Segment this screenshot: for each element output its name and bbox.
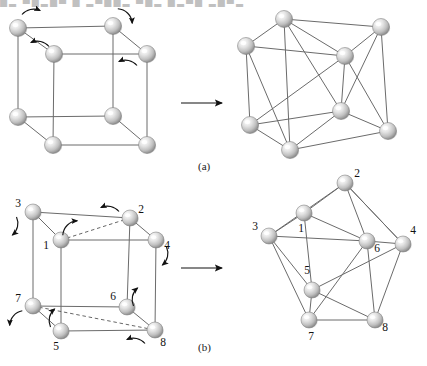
vertex-label-5: 5 xyxy=(304,264,310,276)
vertex-sphere xyxy=(238,38,255,55)
graph-vertex xyxy=(25,298,42,314)
graph-edge-dashed xyxy=(61,218,130,240)
vertex-highlight xyxy=(49,49,55,53)
planar-embedding-unlabeled xyxy=(238,11,398,159)
graph-edge xyxy=(290,131,388,150)
vertex-label-8: 8 xyxy=(160,336,166,348)
graph-edge xyxy=(18,116,113,117)
vertex-sphere xyxy=(242,117,259,134)
vertex-sphere xyxy=(337,48,354,65)
graph-edge xyxy=(345,56,388,131)
vertex-highlight xyxy=(376,22,382,26)
vertex-highlight xyxy=(398,239,403,243)
graph-edge-dashed xyxy=(33,306,155,330)
graph-edge xyxy=(290,111,341,150)
graph-vertex xyxy=(119,299,136,315)
rotation-arrow xyxy=(101,206,119,211)
graph-vertex xyxy=(53,232,70,248)
vertex-sphere xyxy=(276,11,293,28)
vertex-label-7: 7 xyxy=(15,292,21,304)
graph-edge xyxy=(304,213,312,290)
graph-vertex xyxy=(45,137,63,154)
graph-vertex xyxy=(105,108,123,125)
cube-graph-unlabeled xyxy=(10,9,157,154)
graph-edge xyxy=(246,46,250,125)
vertex-highlight xyxy=(340,51,346,55)
graph-vertex xyxy=(105,18,123,35)
vertex-sphere xyxy=(395,236,411,252)
vertex-label-2: 2 xyxy=(354,167,360,179)
vertex-highlight xyxy=(56,326,61,330)
vertex-sphere xyxy=(46,46,63,63)
graph-edge xyxy=(269,236,367,241)
graph-edge xyxy=(312,244,403,290)
diagram-panels: 3124756821364578 xyxy=(10,9,417,352)
graph-edge xyxy=(250,56,345,125)
vertex-label-3: 3 xyxy=(15,197,21,209)
graph-edge xyxy=(33,306,127,307)
vertex-highlight xyxy=(28,301,33,305)
figure-root: █▄ ▀█▄█▀ █ ▄▀██▄ ▀█▄ █▄▀█ ▄█▀▄ 312475682… xyxy=(0,0,427,366)
vertex-label-6: 6 xyxy=(110,290,116,302)
vertex-sphere xyxy=(105,18,122,35)
graph-vertex xyxy=(373,19,391,36)
vertex-highlight xyxy=(108,21,114,25)
vertex-sphere xyxy=(139,137,156,154)
rotation-arrow xyxy=(22,9,40,14)
graph-edge xyxy=(312,290,375,320)
vertex-label-4: 4 xyxy=(410,224,416,236)
graph-vertex xyxy=(139,46,157,63)
graph-vertex xyxy=(46,46,64,63)
vertex-sphere xyxy=(53,232,69,248)
vertex-highlight xyxy=(142,140,148,144)
vertex-highlight xyxy=(241,41,247,45)
vertex-sphere xyxy=(45,137,62,154)
vertex-label-3: 3 xyxy=(252,220,258,232)
graph-vertex xyxy=(395,236,412,252)
vertex-highlight xyxy=(122,302,127,306)
graph-vertex xyxy=(10,20,28,37)
vertex-label-1: 1 xyxy=(43,239,49,251)
vertex-sphere xyxy=(337,175,353,191)
vertex-highlight xyxy=(304,315,309,319)
vertex-sphere xyxy=(282,142,299,159)
planar-embedding-labeled: 21364578 xyxy=(252,167,416,342)
vertex-highlight xyxy=(264,231,269,235)
vertex-label-1: 1 xyxy=(298,222,304,234)
graph-vertex xyxy=(276,11,294,28)
graph-edge xyxy=(341,27,381,111)
graph-edge xyxy=(250,111,341,125)
vertex-sphere xyxy=(25,298,41,314)
vertex-sphere xyxy=(261,228,277,244)
graph-edge xyxy=(127,218,130,307)
graph-vertex xyxy=(148,232,165,248)
vertex-sphere xyxy=(139,46,156,63)
graph-edge xyxy=(284,19,381,27)
graph-vertex xyxy=(53,323,70,339)
vertex-highlight xyxy=(336,106,342,110)
panel-a xyxy=(10,9,398,159)
vertex-highlight xyxy=(142,49,148,53)
graph-vertex xyxy=(238,38,256,55)
rotation-arrow xyxy=(10,311,23,325)
vertex-highlight xyxy=(383,126,389,130)
graph-vertex xyxy=(282,142,300,159)
vertex-highlight xyxy=(13,23,19,27)
vertex-sphere xyxy=(296,205,312,221)
graph-vertex xyxy=(337,175,354,191)
vertex-highlight xyxy=(151,235,156,239)
rotation-arrow xyxy=(132,288,137,306)
graph-vertex xyxy=(139,137,157,154)
graph-edge xyxy=(155,240,156,330)
graph-vertex xyxy=(25,204,42,220)
vertex-sphere xyxy=(359,233,375,249)
vertex-sphere xyxy=(10,109,27,126)
graph-edge xyxy=(246,46,290,150)
vertex-sphere xyxy=(25,204,41,220)
graph-vertex xyxy=(380,123,398,140)
panel-caption-b: (b) xyxy=(198,341,211,353)
graph-vertex xyxy=(301,312,318,328)
vertex-sphere xyxy=(10,20,27,37)
vertex-label-6: 6 xyxy=(374,242,380,254)
graph-edge xyxy=(18,26,113,28)
